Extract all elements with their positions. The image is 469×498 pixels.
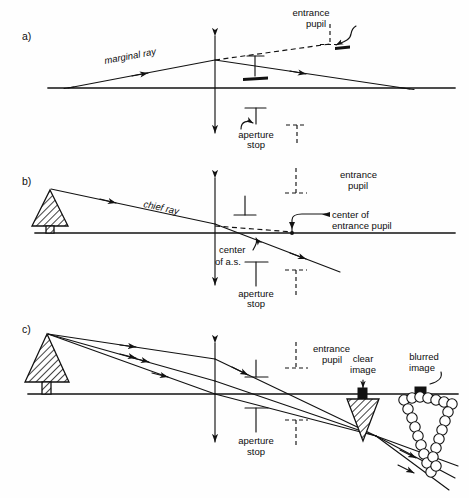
optical-diagram-svg: a) [0, 0, 469, 498]
center-of-as-label-line1: center [219, 244, 245, 255]
aperture-stop-label-line1-c: aperture [238, 435, 273, 446]
center-entrance-pupil-label-line1: center of [332, 209, 369, 220]
entrance-pupil-label-line1-c: entrance [313, 343, 350, 354]
panel-b-letter: b) [22, 175, 31, 187]
entrance-pupil-label-line1-b: entrance [340, 169, 377, 180]
clear-image-label-line2: image [350, 364, 376, 375]
tree-trunk-icon [46, 226, 54, 233]
clear-image-trunk-icon [358, 388, 367, 399]
panel-c-letter: c) [22, 323, 31, 335]
blurred-image-label-line1: blurred [409, 351, 439, 362]
tree-trunk-icon-c [42, 382, 51, 394]
aperture-stop-label-line2-b: stop [247, 298, 265, 309]
center-of-entrance-pupil-point [290, 231, 294, 235]
blurred-image-label-line2: image [409, 362, 435, 373]
center-of-as-label-line2: of a.s. [215, 256, 241, 267]
aperture-stop-label-line2-c: stop [247, 446, 265, 457]
entrance-pupil-label-line2-b: pupil [348, 180, 368, 191]
center-entrance-pupil-label-line2: entrance pupil [332, 220, 392, 231]
aperture-stop-label-line2-a: stop [247, 139, 265, 150]
panel-a-letter: a) [22, 30, 31, 42]
entrance-pupil-label-line2-c: pupil [322, 354, 342, 365]
entrance-pupil-label-line1-a: entrance [293, 7, 330, 18]
entrance-pupil-label-line2-a: pupil [306, 18, 326, 29]
clear-image-label-line1: clear [353, 353, 374, 364]
figure-canvas: a) [0, 0, 469, 498]
